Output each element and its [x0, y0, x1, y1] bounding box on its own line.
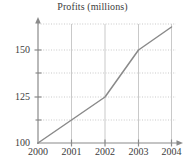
x-tick-label-2002: 2002	[88, 146, 122, 157]
x-tick-label-2004: 2004	[155, 146, 186, 157]
vertical-gridlines	[72, 24, 172, 143]
x-tick-label-2000: 2000	[21, 146, 55, 157]
y-axis	[35, 17, 42, 144]
x-tick-label-2001: 2001	[55, 146, 89, 157]
chart-figure: Profits (millions)	[0, 0, 185, 160]
x-tick-label-2003: 2003	[122, 146, 156, 157]
y-tick-label-125: 125	[0, 91, 30, 102]
y-tick-label-150: 150	[0, 44, 30, 55]
line-chart-plot	[0, 0, 185, 160]
